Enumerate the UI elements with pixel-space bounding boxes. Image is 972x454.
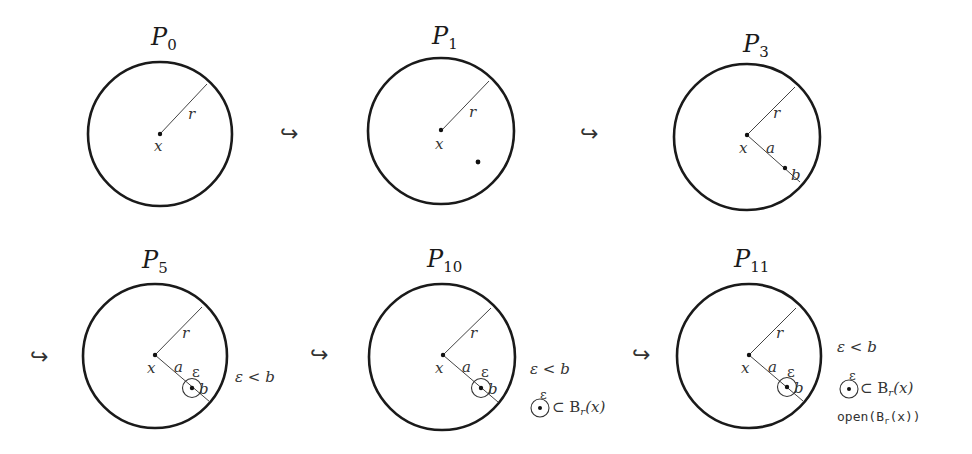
b-label: b [791, 166, 801, 184]
panel-title: P0 [150, 23, 177, 54]
epsilon-label: ε [849, 368, 856, 383]
panel-p1: P1 x r [368, 22, 514, 204]
epsilon-ball-icon-center [538, 406, 542, 410]
note-epsilon-less-b: ε < b [837, 338, 877, 356]
radius-label: r [188, 105, 196, 123]
epsilon-ball-center [785, 385, 789, 389]
radius-line [441, 81, 489, 131]
hook-arrow-icon: ↪ [632, 342, 650, 367]
panel-p3: P3 x r a b [674, 30, 820, 210]
center-point [747, 353, 751, 357]
center-label: x [739, 139, 748, 157]
a-label: a [768, 358, 777, 376]
ball-circle [369, 284, 515, 430]
panel-title: P5 [141, 246, 168, 277]
panel-title: P11 [733, 245, 769, 276]
radius-line [749, 308, 796, 355]
a-label: a [766, 139, 775, 157]
panel-title: P1 [431, 22, 458, 53]
a-label: a [462, 358, 471, 376]
epsilon-ball-center [190, 386, 194, 390]
point-on-segment [783, 166, 787, 170]
center-label: x [435, 359, 444, 377]
epsilon-ball-icon-center [847, 387, 851, 391]
note-subset-ball: ⊂ Br(x) [552, 398, 605, 417]
b-label: b [488, 380, 498, 398]
note-epsilon-less-b: ε < b [530, 360, 570, 378]
hook-arrow-icon: ↪ [580, 121, 598, 146]
radius-label: r [470, 324, 478, 342]
b-label: b [794, 379, 804, 397]
radius-label: r [773, 104, 781, 122]
radius-label: r [182, 324, 190, 342]
b-label: b [199, 380, 209, 398]
hook-arrow-icon: ↪ [30, 344, 48, 369]
note-subset-ball: ⊂ Br(x) [860, 379, 913, 398]
center-point [441, 353, 445, 357]
panel-title: P3 [742, 30, 769, 61]
proof-sequence-diagram: P0 x r ↪ P1 x r ↪ P3 x r a b ↪ P5 [0, 0, 972, 454]
radius-line [160, 84, 207, 134]
epsilon-label: ε [540, 387, 547, 402]
radius-line [155, 307, 202, 355]
center-label: x [154, 137, 163, 155]
panel-p11: P11 x r a ε b ε < b ε ⊂ Br(x) open(Br(x)… [677, 245, 921, 428]
panel-p5: P5 x r a ε b ε < b [83, 246, 275, 428]
panel-p0: P0 x r [88, 23, 232, 206]
radius-line [747, 87, 795, 135]
arbitrary-point [476, 160, 481, 165]
radius-line [443, 308, 491, 355]
center-label: x [741, 359, 750, 377]
center-point [158, 132, 162, 136]
center-point [439, 128, 443, 132]
epsilon-ball-center [479, 386, 483, 390]
center-label: x [147, 359, 156, 377]
center-point [745, 133, 749, 137]
hook-arrow-icon: ↪ [310, 342, 328, 367]
radius-label: r [469, 103, 477, 121]
panel-p10: P10 x r a ε b ε < b ε ⊂ Br(x) [369, 245, 605, 430]
panel-title: P10 [426, 245, 462, 276]
hook-arrow-icon: ↪ [280, 121, 298, 146]
center-label: x [435, 135, 444, 153]
note-open-ball: open(Br(x)) [837, 409, 921, 426]
epsilon-label: ε [192, 363, 200, 381]
radius-label: r [776, 324, 784, 342]
center-point [153, 353, 157, 357]
epsilon-label: ε [481, 363, 489, 381]
a-label: a [174, 358, 183, 376]
note-epsilon-less-b: ε < b [235, 368, 275, 386]
